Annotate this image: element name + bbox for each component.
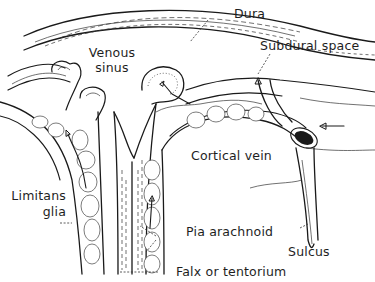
venous-sinus-walls — [8, 61, 375, 120]
label-limitans-glia: Limitans glia — [4, 188, 66, 220]
label-falx-or-tentorium: Falx or tentorium — [176, 266, 286, 279]
label-venous-sinus: Venous sinus — [82, 45, 142, 75]
label-subdural-space: Subdural space — [260, 40, 359, 53]
cortical-arch — [156, 100, 306, 150]
label-cortical-vein: Cortical vein — [191, 150, 272, 163]
meninges-diagram: Dura Subdural space Venous sinus Cortica… — [0, 0, 375, 282]
label-pia-arachnoid: Pia arachnoid — [186, 226, 273, 239]
right-cortex-fold — [144, 150, 164, 274]
label-dura: Dura — [234, 8, 265, 21]
label-sulcus: Sulcus — [288, 246, 330, 259]
